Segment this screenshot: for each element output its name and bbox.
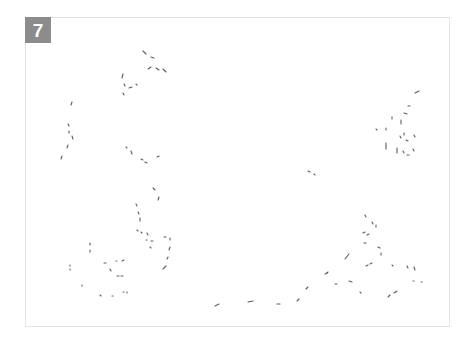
contour-stroke (297, 299, 299, 301)
contour-stroke (137, 230, 138, 231)
contour-stroke (400, 136, 401, 138)
contour-stroke (123, 93, 124, 95)
contour-stroke (378, 247, 380, 248)
contour-stroke (403, 151, 404, 153)
contour-stroke (414, 267, 415, 270)
contour-stroke (169, 247, 170, 250)
contour-stroke (414, 135, 415, 137)
contour-stroke (163, 266, 166, 269)
contour-stroke (367, 234, 369, 235)
contour-stroke (215, 304, 219, 306)
contour-stroke (67, 145, 68, 148)
contour-stroke (404, 113, 407, 114)
contour-stroke (122, 260, 124, 261)
contour-stroke (415, 91, 419, 93)
panel-label: 7 (33, 21, 44, 40)
contour-stroke (306, 287, 308, 289)
contour-stroke (360, 292, 361, 293)
contour-stroke (136, 84, 137, 85)
contour-stroke (156, 68, 159, 70)
contour-stroke (370, 263, 372, 264)
contour-stroke (157, 156, 159, 157)
contour-stroke (406, 140, 408, 141)
contour-stroke (147, 233, 148, 235)
contour-stroke (122, 74, 123, 78)
contour-stroke (129, 87, 132, 88)
contour-stroke (151, 57, 154, 58)
contour-strokes (0, 0, 470, 339)
contour-stroke (345, 254, 349, 259)
contour-stroke (72, 136, 73, 139)
contour-stroke (68, 124, 69, 126)
contour-stroke (71, 102, 72, 105)
contour-stroke (248, 301, 253, 302)
contour-stroke (124, 84, 125, 86)
contour-stroke (110, 269, 111, 271)
contour-stroke (413, 149, 414, 151)
contour-stroke (388, 295, 390, 297)
contour-stroke (145, 162, 147, 163)
contour-stroke (394, 291, 397, 293)
contour-stroke (167, 257, 168, 259)
contour-stroke (138, 212, 139, 214)
contour-stroke (366, 265, 368, 266)
contour-stroke (349, 281, 352, 282)
contour-stroke (376, 129, 377, 130)
contour-stroke (61, 156, 62, 159)
contour-stroke (153, 188, 155, 190)
contour-stroke (131, 151, 132, 154)
contour-stroke (126, 147, 127, 148)
contour-stroke (363, 232, 365, 233)
contour-stroke (141, 159, 143, 160)
contour-stroke (314, 174, 315, 175)
contour-stroke (392, 265, 393, 266)
contour-stroke (163, 69, 166, 72)
contour-stroke (141, 232, 142, 233)
panel-label-badge: 7 (25, 17, 51, 43)
contour-stroke (372, 222, 373, 224)
contour-stroke (158, 197, 159, 200)
contour-stroke (148, 67, 151, 69)
contour-stroke (327, 272, 328, 273)
contour-stroke (365, 215, 366, 217)
contour-stroke (143, 51, 146, 54)
contour-stroke (136, 204, 137, 206)
contour-stroke (150, 247, 151, 248)
contour-stroke (100, 295, 101, 296)
contour-stroke (407, 266, 408, 268)
contour-stroke (308, 171, 310, 172)
